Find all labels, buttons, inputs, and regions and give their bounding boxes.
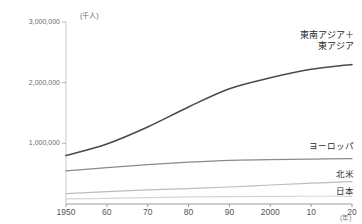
y-tick-marks [62, 22, 66, 143]
x-tick-label: 90 [209, 208, 249, 218]
y-tick-label: 2,000,000 [0, 79, 60, 87]
x-tick-label: 70 [128, 208, 168, 218]
y-tick-label: 3,000,000 [0, 18, 60, 26]
x-tick-label: 2000 [250, 208, 290, 218]
x-tick-label: 1950 [46, 208, 86, 218]
series-label-southeast-east-asia: 東南アジア＋ 東アジア [252, 30, 354, 53]
x-axis-unit-label: (年) [340, 214, 351, 221]
x-tick-label: 80 [169, 208, 209, 218]
y-tick-label: 1,000,000 [0, 139, 60, 147]
series-label-line-2: 東アジア [252, 41, 354, 52]
x-tick-label: 10 [291, 208, 331, 218]
series-label-europe: ヨーロッパ [254, 142, 354, 152]
series-label-north-america: 北米 [254, 170, 354, 180]
series-label-japan: 日本 [254, 187, 354, 197]
y-axis-unit-label: (千人) [80, 12, 99, 20]
series-label-line-1: 東南アジア＋ [252, 30, 354, 41]
chart-container: (千人) 3,000,0002,000,0001,000,000 1950607… [0, 0, 362, 224]
series-line-3 [66, 196, 352, 199]
x-tick-label: 60 [87, 208, 127, 218]
